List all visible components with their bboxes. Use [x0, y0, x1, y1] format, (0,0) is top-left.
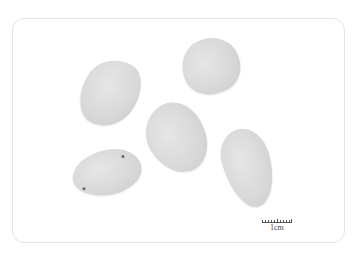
scale-bar-label: 1cm	[270, 223, 284, 232]
seed-marking	[121, 155, 124, 158]
seed-marking	[82, 187, 85, 190]
